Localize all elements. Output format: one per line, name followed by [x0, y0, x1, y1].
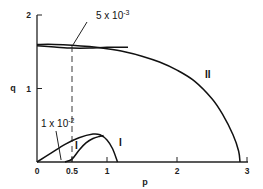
y-axis-label: q [10, 83, 16, 93]
y-tick-label: 1 [26, 84, 31, 94]
series-label-ii: II [205, 69, 211, 80]
annotation-exponent: -2 [68, 117, 74, 124]
annotation-5e-3: 5 x 10-3 [96, 9, 130, 21]
annotation-exponent: -3 [123, 9, 129, 16]
x-tick-label: 2 [175, 166, 180, 176]
series-ii-line [37, 44, 240, 162]
chart: 00.512312 5 x 10-31 x 10-2IIII p q [0, 0, 263, 189]
series-i-inner-line [65, 136, 104, 162]
annotations: 5 x 10-31 x 10-2IIII [41, 9, 211, 160]
annotation-arrow [56, 131, 61, 160]
curves [37, 44, 240, 162]
series-label-i-inner: I [75, 140, 78, 151]
y-tick-label: 2 [26, 10, 31, 20]
x-axis-label: p [142, 177, 148, 187]
annotation-arrow [73, 22, 87, 45]
x-tick-label: 0 [35, 166, 40, 176]
x-tick-label: 1 [105, 166, 110, 176]
annotation-1e-2: 1 x 10-2 [41, 117, 75, 129]
axes [37, 15, 248, 162]
x-tick-label: 0.5 [66, 166, 78, 176]
x-tick-label: 3 [245, 166, 250, 176]
series-label-i: I [119, 137, 122, 148]
